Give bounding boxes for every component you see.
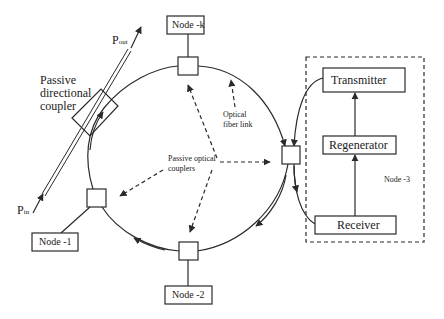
- connector-node-1: [61, 207, 90, 233]
- ring-network-diagram: [0, 0, 444, 319]
- p-in-sub: in: [24, 208, 29, 216]
- optical-fiber-link-label: Optical fiber link: [223, 110, 253, 130]
- p-out-arrow: [131, 27, 141, 48]
- p-in-label: Pin: [17, 204, 29, 216]
- coupler-node-k[interactable]: [178, 57, 198, 75]
- node-1-label: Node -1: [39, 237, 72, 247]
- coupler-to-receiver-fiber: [294, 164, 315, 224]
- node-2-label: Node -2: [172, 290, 205, 300]
- transmitter-label: Transmitter: [331, 74, 387, 86]
- p-out-sub: out: [119, 38, 128, 46]
- bus-fiber: [33, 27, 141, 213]
- pointer-to-coupler-k: [188, 85, 217, 158]
- ring-arc-2-to-1: [102, 207, 179, 251]
- ring-arc-3-to-2: [197, 164, 288, 251]
- pointer-to-fiber-link: [231, 80, 235, 107]
- node-k-label: Node -k: [172, 20, 205, 30]
- bus-fiber-line-a: [42, 49, 128, 194]
- p-in-arrow: [33, 194, 43, 213]
- pointer-to-coupler-2: [190, 170, 212, 232]
- passive-optical-couplers-line2: couplers: [168, 164, 216, 174]
- transmitter-to-coupler-fiber: [294, 78, 323, 146]
- ring-arc-k-to-3: [198, 66, 285, 146]
- coupler-node-1[interactable]: [87, 189, 106, 207]
- directional-coupler-label-line3: coupler: [40, 100, 91, 113]
- passive-optical-couplers-line1: Passive optical: [168, 154, 216, 164]
- optical-fiber-link-line1: Optical: [223, 110, 253, 120]
- passive-optical-couplers-label: Passive optical couplers: [168, 154, 216, 174]
- directional-coupler-label: Passive directional coupler: [40, 74, 91, 113]
- p-in-main: P: [17, 203, 24, 217]
- ring-arc-1-to-k: [88, 66, 178, 189]
- optical-fiber-link-line2: fiber link: [223, 120, 253, 130]
- coupler-node-3[interactable]: [282, 146, 300, 164]
- node-3-label: Node -3: [384, 176, 410, 184]
- coupler-node-2[interactable]: [179, 242, 198, 260]
- pointer-to-coupler-1: [120, 170, 163, 196]
- receiver-label: Receiver: [337, 219, 380, 231]
- regenerator-label: Regenerator: [329, 139, 388, 151]
- p-out-label: Pout: [112, 34, 128, 46]
- p-out-main: P: [112, 33, 119, 47]
